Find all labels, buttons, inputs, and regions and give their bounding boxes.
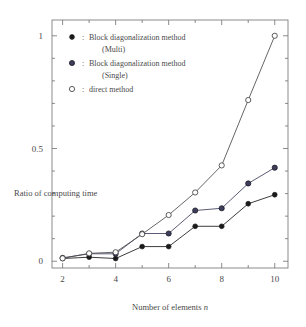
data-point-marker xyxy=(87,251,92,256)
chart-figure: 246810 00.51 Ratio of computing time Num… xyxy=(0,0,306,327)
y-axis-title: Ratio of computing time xyxy=(14,188,98,198)
x-axis-title: Number of elements n xyxy=(132,302,208,312)
data-point-marker xyxy=(113,256,118,261)
data-point-marker xyxy=(246,181,251,186)
x-axis-title-symbol: n xyxy=(204,302,208,312)
data-point-marker xyxy=(166,244,171,249)
data-point-marker xyxy=(193,224,198,229)
data-point-marker xyxy=(70,35,75,40)
data-point-marker xyxy=(272,192,277,197)
data-point-marker xyxy=(246,201,251,206)
data-point-marker xyxy=(193,190,198,195)
x-tick-label: 2 xyxy=(60,274,65,284)
legend-label-line1: Block diagonalization method xyxy=(89,33,185,42)
legend-separator: : xyxy=(82,33,84,42)
data-point-marker xyxy=(219,163,224,168)
data-point-marker xyxy=(166,231,171,236)
legend-label-line2: (Multi) xyxy=(102,45,125,54)
legend-separator: : xyxy=(82,59,84,68)
legend-label-line2: (Single) xyxy=(102,71,128,80)
x-tick-label: 8 xyxy=(219,274,224,284)
data-point-marker xyxy=(69,60,74,65)
data-point-marker xyxy=(272,165,277,170)
x-tick-label: 10 xyxy=(270,274,280,284)
data-point-marker xyxy=(219,224,224,229)
data-point-marker xyxy=(166,212,171,217)
data-point-marker xyxy=(246,97,251,102)
chart-background xyxy=(0,0,306,327)
legend-label-line1: Block diagonalization method xyxy=(89,59,185,68)
data-point-marker xyxy=(140,232,145,237)
chart-canvas: 246810 00.51 Ratio of computing time Num… xyxy=(0,0,306,327)
data-point-marker xyxy=(113,250,118,255)
data-point-marker xyxy=(140,244,145,249)
data-point-marker xyxy=(60,256,65,261)
data-point-marker xyxy=(219,206,224,211)
x-tick-label: 6 xyxy=(166,274,171,284)
x-axis-title-prefix: Number of elements xyxy=(132,302,204,312)
legend-label-line1: direct method xyxy=(89,85,133,94)
data-point-marker xyxy=(272,33,277,38)
data-point-marker xyxy=(193,208,198,213)
y-tick-label: 1 xyxy=(39,31,44,41)
y-tick-label: 0.5 xyxy=(32,144,44,154)
data-point-marker xyxy=(69,86,74,91)
legend-separator: : xyxy=(82,85,84,94)
x-tick-label: 4 xyxy=(113,274,118,284)
y-tick-label: 0 xyxy=(39,256,44,266)
